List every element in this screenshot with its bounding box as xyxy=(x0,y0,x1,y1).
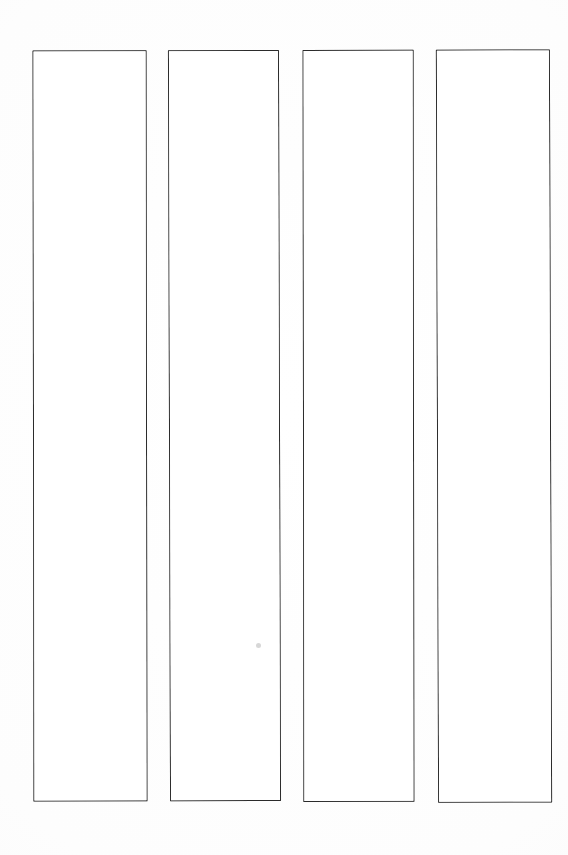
column-box-4[interactable] xyxy=(436,49,552,802)
column-2-writing-area[interactable] xyxy=(169,51,280,800)
column-box-1[interactable] xyxy=(33,50,148,801)
column-3-writing-area[interactable] xyxy=(304,51,414,801)
column-box-2[interactable] xyxy=(168,50,281,801)
scanned-page xyxy=(0,0,568,855)
column-4-writing-area[interactable] xyxy=(437,50,551,801)
column-box-3[interactable] xyxy=(303,50,415,802)
column-group xyxy=(0,0,568,855)
column-1-writing-area[interactable] xyxy=(34,51,147,800)
